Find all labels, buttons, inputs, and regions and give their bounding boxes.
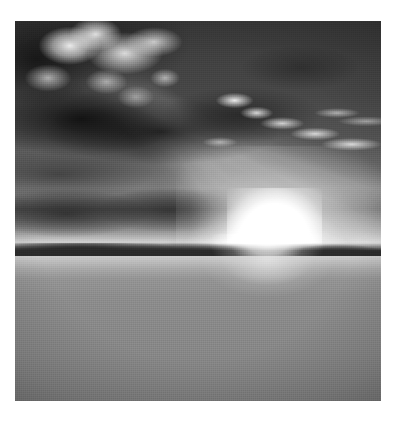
photo-page <box>0 0 397 434</box>
photograph <box>15 21 381 401</box>
mud-crack-network <box>15 256 381 401</box>
